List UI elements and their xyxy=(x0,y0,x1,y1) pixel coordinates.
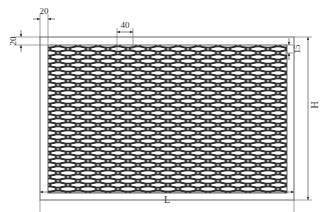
dim-label-frame-left: 20 xyxy=(40,6,50,16)
dim-label-frame-top: 20 xyxy=(8,36,18,46)
mesh-panel-drawing: 20 20 40 15 H L xyxy=(0,0,325,212)
dim-label-mesh-vertical: 15 xyxy=(292,44,302,54)
dim-overall-length: L xyxy=(40,191,294,212)
mesh-area xyxy=(48,45,287,193)
dim-label-overall-height: H xyxy=(309,101,320,108)
dim-label-overall-length: L xyxy=(164,194,170,205)
dim-frame-width-left: 20 xyxy=(33,6,55,44)
dim-frame-width-top: 20 xyxy=(8,30,48,52)
dim-overall-height: H xyxy=(294,37,320,200)
dim-label-mesh-horizontal: 40 xyxy=(121,20,131,30)
